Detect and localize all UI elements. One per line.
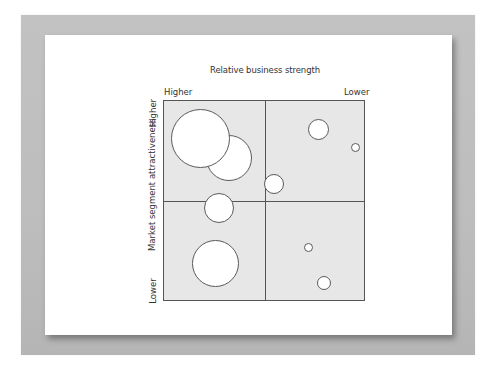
bubble (308, 119, 329, 140)
bubble (264, 174, 284, 194)
bubble (192, 240, 239, 287)
y-axis-title: Market segment attractiveness (147, 151, 157, 251)
bubble (171, 109, 230, 168)
x-axis-higher-label: Higher (164, 87, 192, 97)
horizontal-divider (163, 201, 365, 202)
x-axis-title: Relative business strength (165, 65, 365, 75)
bubble (304, 243, 313, 252)
x-axis-lower-label: Lower (344, 87, 369, 97)
bubble (204, 193, 234, 223)
y-axis-lower-label: Lower (148, 278, 158, 304)
y-axis-higher-label: Higher (148, 98, 158, 128)
bubble (351, 143, 360, 152)
slide-stage: Relative business strength Higher Lower … (0, 0, 498, 371)
bubble (317, 276, 331, 290)
